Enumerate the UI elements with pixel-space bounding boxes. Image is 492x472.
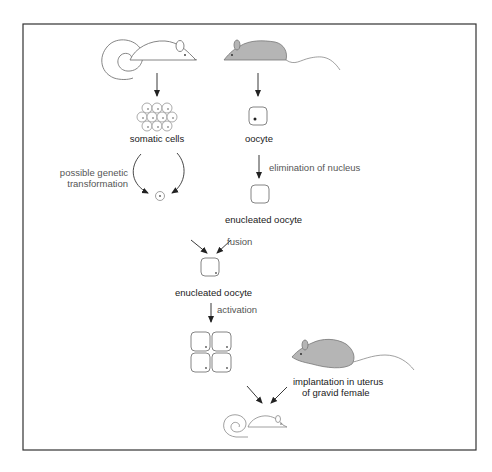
label-elimination-of-nucleus: elimination of nucleus [269, 162, 360, 173]
label-implantation-line1: implantation in uterus [293, 376, 383, 387]
label-fusion: fusion [227, 236, 252, 247]
label-possible-genetic: possible genetic [32, 167, 128, 178]
label-activation: activation [217, 304, 257, 315]
label-implantation-line2: of gravid female [302, 387, 370, 398]
somatic-cells-cluster-icon [137, 103, 177, 131]
cloning-diagram: somatic cells oocyte possible genetic tr… [0, 0, 492, 472]
label-transformation: transformation [32, 178, 128, 189]
oocyte-icon [249, 107, 267, 125]
label-oocyte: oocyte [245, 133, 273, 144]
label-enucleated-oocyte-2: enucleated oocyte [175, 287, 252, 298]
label-somatic-cells: somatic cells [130, 133, 184, 144]
label-enucleated-oocyte-1: enucleated oocyte [225, 214, 302, 225]
reconstructed-oocyte-icon [201, 258, 219, 276]
enucleated-oocyte-icon [251, 185, 269, 203]
transformed-cell-icon [156, 192, 165, 201]
